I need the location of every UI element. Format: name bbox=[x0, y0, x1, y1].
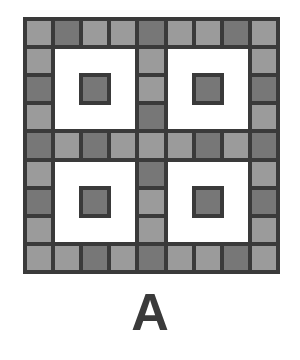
center-tile bbox=[79, 73, 111, 105]
dark-tile bbox=[55, 21, 79, 45]
center-tile bbox=[192, 186, 224, 218]
light-tile bbox=[139, 133, 163, 157]
light-tile bbox=[252, 218, 276, 242]
light-tile bbox=[27, 49, 51, 73]
dark-tile bbox=[224, 21, 248, 45]
light-tile bbox=[252, 162, 276, 186]
dark-tile bbox=[83, 246, 107, 270]
light-tile bbox=[27, 218, 51, 242]
center-tile bbox=[192, 73, 224, 105]
dark-tile bbox=[27, 77, 51, 101]
dark-tile bbox=[252, 133, 276, 157]
light-tile bbox=[168, 133, 192, 157]
dark-tile bbox=[196, 133, 220, 157]
light-tile bbox=[196, 246, 220, 270]
quilt-pattern-grid bbox=[23, 17, 280, 274]
light-tile bbox=[55, 133, 79, 157]
light-tile bbox=[27, 162, 51, 186]
light-tile bbox=[27, 21, 51, 45]
dark-tile bbox=[224, 246, 248, 270]
light-tile bbox=[168, 246, 192, 270]
light-tile bbox=[27, 105, 51, 129]
dark-tile bbox=[83, 133, 107, 157]
light-tile bbox=[252, 21, 276, 45]
dark-tile bbox=[139, 162, 163, 186]
light-tile bbox=[139, 218, 163, 242]
light-tile bbox=[139, 190, 163, 214]
light-tile bbox=[111, 21, 135, 45]
light-tile bbox=[139, 49, 163, 73]
light-tile bbox=[196, 21, 220, 45]
figure-label: A bbox=[0, 284, 300, 340]
light-tile bbox=[111, 133, 135, 157]
light-tile bbox=[139, 77, 163, 101]
center-tile bbox=[79, 186, 111, 218]
light-tile bbox=[252, 105, 276, 129]
light-tile bbox=[252, 246, 276, 270]
light-tile bbox=[111, 246, 135, 270]
light-tile bbox=[252, 49, 276, 73]
dark-tile bbox=[252, 77, 276, 101]
dark-tile bbox=[139, 105, 163, 129]
light-tile bbox=[168, 21, 192, 45]
light-tile bbox=[27, 246, 51, 270]
light-tile bbox=[55, 246, 79, 270]
dark-tile bbox=[27, 133, 51, 157]
light-tile bbox=[224, 133, 248, 157]
dark-tile bbox=[139, 21, 163, 45]
light-tile bbox=[83, 21, 107, 45]
dark-tile bbox=[27, 190, 51, 214]
dark-tile bbox=[252, 190, 276, 214]
dark-tile bbox=[139, 246, 163, 270]
